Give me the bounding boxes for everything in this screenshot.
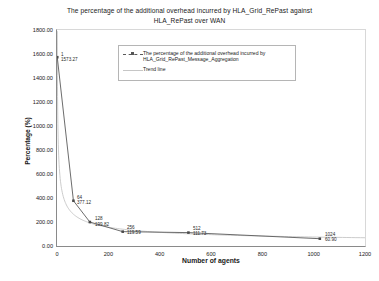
point-annotation-1024-value: 60.90 <box>325 237 337 242</box>
data-point-1 <box>57 56 59 59</box>
data-point-256 <box>121 230 124 233</box>
point-annotation-1: 1 1573.27 <box>61 52 78 62</box>
chart-title-line-2: HLA_RePast over WAN <box>0 16 379 26</box>
point-annotation-1024: 1024 60.90 <box>325 232 337 242</box>
y-axis-label: Percentage (%) <box>24 117 31 165</box>
chart-container: The percentage of the additional overhea… <box>0 0 379 281</box>
legend-label-series-line-2: HLA_Grid_RePast_Message_Aggregation <box>143 56 265 62</box>
legend-marker-trend-icon <box>123 67 143 73</box>
data-point-128 <box>89 221 92 224</box>
point-annotation-512: 512 111.73 <box>193 226 206 236</box>
y-tick-400: 400.00 <box>36 195 57 201</box>
point-annotation-128: 128 199.82 <box>95 216 109 226</box>
y-tick-200: 200.00 <box>36 219 57 225</box>
point-annotation-1-value: 1573.27 <box>61 57 78 62</box>
x-axis-label: Number of agents <box>57 257 365 264</box>
point-annotation-256-value: 119.59 <box>127 230 141 235</box>
legend-entry-series[interactable]: The percentage of the additional overhea… <box>123 50 291 63</box>
y-tick-1200: 1200.00 <box>33 99 57 105</box>
legend-marker-series-icon <box>123 51 143 57</box>
y-tick-1600: 1600.00 <box>33 51 57 57</box>
y-tick-1800: 1800.00 <box>33 27 57 33</box>
y-tick-1000: 1000.00 <box>33 123 57 129</box>
legend-label-trend: Trend line <box>143 66 165 72</box>
point-annotation-64-value: 377.12 <box>77 200 91 205</box>
chart-legend: The percentage of the additional overhea… <box>118 45 296 81</box>
legend-label-trend-line-1: Trend line <box>143 66 165 72</box>
data-point-512 <box>187 231 190 234</box>
y-tick-0: 0.00 <box>42 243 57 249</box>
chart-title-line-1: The percentage of the additional overhea… <box>0 6 379 16</box>
y-tick-600: 600.00 <box>36 171 57 177</box>
point-annotation-512-value: 111.73 <box>193 231 206 236</box>
point-annotation-128-value: 199.82 <box>95 221 109 226</box>
data-series-markers <box>57 56 321 240</box>
legend-label-series: The percentage of the additional overhea… <box>143 50 265 63</box>
point-annotation-64: 64 377.12 <box>77 194 91 204</box>
point-annotation-256: 256 119.59 <box>127 225 141 235</box>
legend-entry-trend[interactable]: Trend line <box>123 66 291 73</box>
data-point-64 <box>72 199 75 202</box>
chart-title: The percentage of the additional overhea… <box>0 6 379 25</box>
y-tick-1400: 1400.00 <box>33 75 57 81</box>
data-series-line <box>57 57 320 238</box>
y-tick-800: 800.00 <box>36 147 57 153</box>
data-point-1024 <box>319 237 322 240</box>
